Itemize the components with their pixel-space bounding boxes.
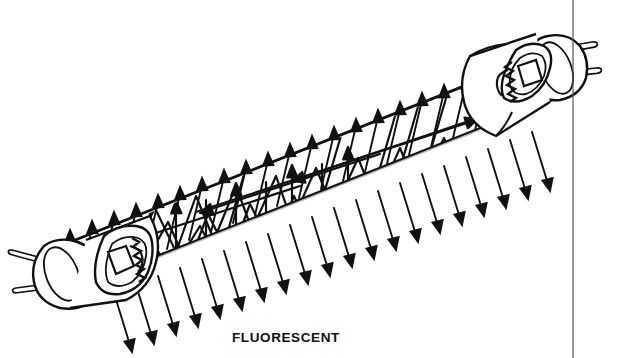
- lamp-diagram-svg: [0, 0, 619, 358]
- left-electrode-cap: [8, 216, 158, 309]
- fluorescent-lamp-figure: FLUORESCENT: [0, 0, 619, 358]
- figure-caption: FLUORESCENT: [232, 330, 340, 345]
- right-electrode-cap: [462, 34, 601, 136]
